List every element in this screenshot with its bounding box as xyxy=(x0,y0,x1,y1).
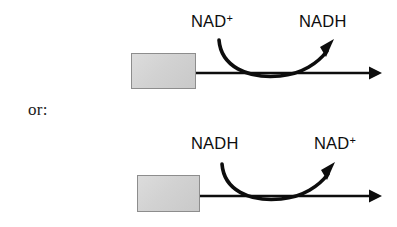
reaction-oxidation: NAD+ NADH xyxy=(0,0,397,110)
cofactor-curved-arrow xyxy=(222,162,335,199)
reaction-arrows xyxy=(0,0,397,110)
reaction-reduction: NADH NAD+ xyxy=(0,122,397,227)
reaction-arrows xyxy=(0,122,397,227)
diagram-canvas: or: NAD+ NADH NADH NAD+ xyxy=(0,0,397,227)
cofactor-curved-arrow xyxy=(219,39,334,76)
